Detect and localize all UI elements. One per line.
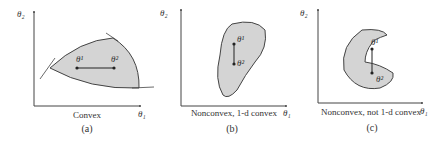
point-1-label: θ¹ [237, 34, 244, 44]
point-2-label: θ² [237, 58, 244, 68]
y-axis-arrow-icon [180, 9, 182, 11]
point-2 [232, 62, 235, 65]
x-axis-arrow-icon [139, 105, 141, 107]
point-2 [370, 71, 373, 74]
point-1 [75, 66, 78, 69]
point-1-label: θ¹ [371, 37, 378, 47]
panel-caption: (b) [226, 123, 238, 135]
x-axis-label: θ₁ [283, 108, 291, 118]
panel-subtitle: Convex [73, 110, 101, 120]
nonconvex-region [343, 30, 393, 89]
point-2-label: θ² [376, 74, 383, 84]
point-2 [112, 66, 115, 69]
point-2-label: θ² [111, 54, 118, 64]
y-axis-arrow-icon [33, 11, 35, 13]
y-axis-arrow-icon [317, 9, 319, 11]
point-1 [232, 42, 235, 45]
y-axis-label: θ₂ [160, 8, 168, 18]
panel-caption: (c) [366, 122, 377, 134]
y-axis-label: θ₂ [300, 8, 308, 18]
panel-caption: (a) [81, 123, 92, 135]
convex-region [50, 38, 139, 88]
point-1-label: θ¹ [76, 54, 83, 64]
x-axis-label: θ₁ [138, 109, 146, 119]
x-axis-label: θ₁ [420, 106, 428, 116]
panel-subtitle: Nonconvex, 1-d convex [191, 108, 278, 118]
panel-b: θ¹ θ² θ₂ θ₁ Nonconvex, 1-d convex (b) [160, 8, 291, 135]
x-axis-arrow-icon [285, 105, 287, 107]
convexity-figure: θ¹ θ² θ₂ θ₁ Convex (a) θ¹ θ² θ₂ θ₁ Nonco… [0, 0, 448, 141]
y-axis-label: θ₂ [17, 9, 25, 19]
point-1 [370, 47, 373, 50]
x-axis-arrow-icon [421, 102, 423, 104]
panel-c: θ¹ θ² θ₂ θ₁ Nonconvex, not 1-d convex (c… [300, 8, 428, 134]
panel-subtitle: Nonconvex, not 1-d convex [321, 107, 421, 117]
panel-a: θ¹ θ² θ₂ θ₁ Convex (a) [17, 9, 154, 135]
